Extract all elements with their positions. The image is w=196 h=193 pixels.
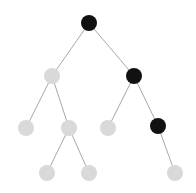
tree-node-L <box>44 68 60 84</box>
tree-node-RR-highlighted <box>150 118 166 134</box>
tree-edge-root-R <box>89 23 134 76</box>
tree-node-root-highlighted <box>81 15 97 31</box>
tree-edge-L-LL <box>26 76 52 128</box>
tree-node-LL <box>18 120 34 136</box>
tree-edge-R-RL <box>108 76 134 128</box>
tree-edges <box>26 23 175 173</box>
tree-node-LR <box>61 120 77 136</box>
tree-node-LRL <box>39 165 55 181</box>
tree-node-LRR <box>81 165 97 181</box>
tree-svg <box>0 0 196 193</box>
tree-diagram <box>0 0 196 193</box>
tree-node-RRR <box>167 165 183 181</box>
tree-edge-root-L <box>52 23 89 76</box>
tree-nodes <box>18 15 183 181</box>
tree-edge-L-LR <box>52 76 69 128</box>
tree-node-RL <box>100 120 116 136</box>
tree-edge-R-RR <box>134 76 158 126</box>
tree-node-R-highlighted <box>126 68 142 84</box>
